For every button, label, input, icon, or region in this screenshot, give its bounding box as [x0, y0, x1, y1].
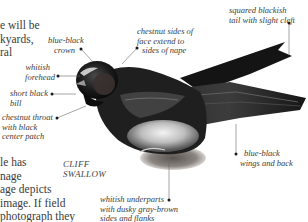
- label-bill: short black bill: [10, 89, 48, 108]
- label-line: sides of nape: [137, 46, 193, 56]
- label-line: center patch: [2, 132, 53, 142]
- label-face: chestnut sides of face extend to sides o…: [137, 27, 193, 56]
- label-line: bill: [10, 99, 48, 109]
- label-line: forehead: [20, 73, 55, 83]
- belly-shape: [127, 120, 199, 152]
- species-caption: CLIFF SWALLOW: [63, 159, 106, 179]
- label-line: sides and flanks: [100, 214, 178, 222]
- label-underparts: whitish underparts with dusky gray-brown…: [100, 195, 178, 222]
- caption-line: CLIFF: [63, 159, 106, 169]
- caption-line: SWALLOW: [63, 169, 106, 179]
- label-line: wings and back: [240, 159, 293, 169]
- field-guide-page: e will be kyards, ral le has nage age de…: [0, 0, 308, 222]
- label-line: crown: [48, 46, 80, 56]
- label-throat: chestnut throat with black center patch: [2, 113, 53, 142]
- label-crown: blue-black crown: [48, 36, 80, 55]
- label-forehead: whitish forehead: [20, 63, 55, 82]
- label-tail: squared blackish tail with slight cleft: [229, 6, 295, 25]
- label-wings: blue-black wings and back: [240, 149, 293, 168]
- label-line: tail with slight cleft: [229, 16, 295, 26]
